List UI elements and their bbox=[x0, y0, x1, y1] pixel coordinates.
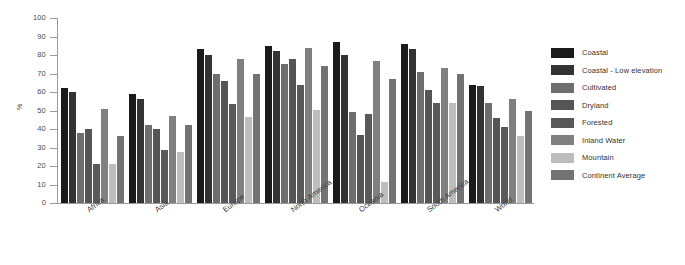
bar bbox=[245, 117, 252, 203]
bar bbox=[409, 49, 416, 203]
bar bbox=[485, 103, 492, 203]
bar bbox=[101, 109, 108, 203]
legend-item[interactable]: Coastal bbox=[551, 44, 683, 62]
bar-group: Oceania bbox=[333, 18, 401, 203]
bar bbox=[389, 79, 396, 203]
bar-chart: % 1009080706050403020100 AfricaAsiaEurop… bbox=[0, 0, 685, 265]
bar-group: Africa bbox=[61, 18, 129, 203]
legend-swatch-icon bbox=[551, 48, 574, 58]
legend-swatch-icon bbox=[551, 83, 574, 93]
y-axis-tick bbox=[50, 203, 58, 204]
y-axis-tick bbox=[50, 129, 58, 130]
bar bbox=[185, 125, 192, 203]
bar bbox=[197, 49, 204, 203]
bar bbox=[525, 111, 532, 204]
y-axis-title: % bbox=[16, 104, 23, 110]
bar bbox=[433, 103, 440, 203]
legend-swatch-icon bbox=[551, 135, 574, 145]
y-axis-tick bbox=[50, 111, 58, 112]
bar bbox=[77, 133, 84, 203]
bar-group-bars bbox=[333, 18, 396, 203]
legend-swatch-icon bbox=[551, 153, 574, 163]
bar bbox=[137, 99, 144, 203]
bar bbox=[117, 136, 124, 203]
plot-area: AfricaAsiaEuropeNorth AmericaOceaniaSout… bbox=[58, 18, 534, 203]
bar-group-bars bbox=[61, 18, 124, 203]
bar bbox=[441, 68, 448, 203]
bar bbox=[129, 94, 136, 203]
y-axis-tick bbox=[50, 148, 58, 149]
y-axis-tick bbox=[50, 166, 58, 167]
legend-swatch-icon bbox=[551, 100, 574, 110]
legend-item[interactable]: Continent Average bbox=[551, 167, 683, 185]
legend-label: Mountain bbox=[582, 153, 614, 162]
bar bbox=[365, 114, 372, 203]
legend-label: Forested bbox=[582, 118, 612, 127]
bar-group-bars bbox=[401, 18, 464, 203]
bar-group: North America bbox=[265, 18, 333, 203]
bar bbox=[205, 55, 212, 203]
y-axis-tick-label: 20 bbox=[26, 161, 46, 170]
bar bbox=[425, 90, 432, 203]
bar bbox=[289, 59, 296, 203]
y-axis-tick-label: 30 bbox=[26, 143, 46, 152]
y-axis-tick-label: 60 bbox=[26, 87, 46, 96]
y-axis-tick bbox=[50, 92, 58, 93]
bar bbox=[145, 125, 152, 203]
bar bbox=[109, 164, 116, 203]
bar-group-bars bbox=[129, 18, 192, 203]
bar-group: Europe bbox=[197, 18, 265, 203]
bar bbox=[229, 104, 236, 203]
legend-label: Cultivated bbox=[582, 83, 616, 92]
legend-item[interactable]: Coastal - Low elevation bbox=[551, 62, 683, 80]
y-axis-tick bbox=[50, 18, 58, 19]
legend-item[interactable]: Cultivated bbox=[551, 79, 683, 97]
legend-swatch-icon bbox=[551, 118, 574, 128]
legend-label: Dryland bbox=[582, 101, 609, 110]
bar bbox=[69, 92, 76, 203]
bar bbox=[401, 44, 408, 203]
y-axis-tick-label: 90 bbox=[26, 32, 46, 41]
legend-item[interactable]: Mountain bbox=[551, 149, 683, 167]
legend-item[interactable]: Dryland bbox=[551, 97, 683, 115]
bar bbox=[477, 86, 484, 203]
bar bbox=[221, 81, 228, 203]
y-axis-tick-label: 0 bbox=[26, 198, 46, 207]
bar bbox=[237, 59, 244, 203]
bar bbox=[281, 64, 288, 203]
bar bbox=[509, 99, 516, 203]
bar bbox=[501, 127, 508, 203]
y-axis-tick-label: 40 bbox=[26, 124, 46, 133]
bar bbox=[341, 55, 348, 203]
legend-label: Coastal bbox=[582, 48, 608, 57]
bar bbox=[177, 152, 184, 203]
bar bbox=[469, 85, 476, 203]
y-axis-tick-label: 100 bbox=[26, 13, 46, 22]
chart-legend: CoastalCoastal - Low elevationCultivated… bbox=[551, 44, 683, 184]
bar-group-bars bbox=[265, 18, 328, 203]
legend-label: Continent Average bbox=[582, 171, 645, 180]
bar-group-bars bbox=[469, 18, 532, 203]
bar bbox=[305, 48, 312, 203]
legend-swatch-icon bbox=[551, 65, 574, 75]
bar-group-bars bbox=[197, 18, 260, 203]
legend-label: Inland Water bbox=[582, 136, 625, 145]
bar bbox=[161, 150, 168, 203]
legend-item[interactable]: Inland Water bbox=[551, 132, 683, 150]
bar-group: World bbox=[469, 18, 537, 203]
legend-swatch-icon bbox=[551, 170, 574, 180]
bar bbox=[357, 135, 364, 203]
y-axis-tick-label: 10 bbox=[26, 180, 46, 189]
y-axis-tick bbox=[50, 185, 58, 186]
bar bbox=[153, 129, 160, 203]
bar-group: Asia bbox=[129, 18, 197, 203]
y-axis-tick-label: 80 bbox=[26, 50, 46, 59]
y-axis-tick bbox=[50, 74, 58, 75]
bar bbox=[265, 46, 272, 203]
y-axis-tick-label: 50 bbox=[26, 106, 46, 115]
bar bbox=[349, 112, 356, 203]
y-axis-tick-label: 70 bbox=[26, 69, 46, 78]
bar bbox=[253, 74, 260, 203]
legend-item[interactable]: Forested bbox=[551, 114, 683, 132]
bar bbox=[297, 85, 304, 203]
